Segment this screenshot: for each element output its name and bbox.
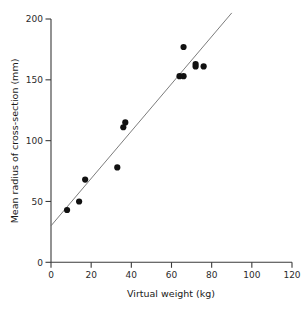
data-point bbox=[193, 61, 199, 67]
y-tick-label: 100 bbox=[26, 136, 43, 146]
x-tick-label: 120 bbox=[283, 270, 300, 280]
x-axis-ticks: 020406080100120 bbox=[48, 262, 301, 280]
y-tick-label: 0 bbox=[37, 258, 43, 268]
x-tick-label: 100 bbox=[243, 270, 260, 280]
y-tick-label: 200 bbox=[26, 14, 43, 24]
data-point bbox=[180, 73, 186, 79]
y-axis-ticks: 050100150200 bbox=[26, 14, 51, 267]
data-point bbox=[201, 63, 207, 69]
data-point bbox=[114, 164, 120, 170]
scatter-chart: 050100150200 020406080100120 Virtual wei… bbox=[0, 0, 308, 312]
axes-group bbox=[51, 19, 292, 262]
x-tick-label: 80 bbox=[206, 270, 218, 280]
x-axis-title: Virtual weight (kg) bbox=[127, 288, 215, 299]
x-tick-label: 0 bbox=[48, 270, 54, 280]
data-point bbox=[64, 207, 70, 213]
data-point bbox=[82, 176, 88, 182]
x-tick-label: 20 bbox=[85, 270, 97, 280]
regression-line bbox=[51, 13, 232, 226]
x-tick-label: 60 bbox=[166, 270, 178, 280]
chart-canvas: 050100150200 020406080100120 Virtual wei… bbox=[0, 0, 308, 312]
data-point bbox=[76, 198, 82, 204]
y-axis-title: Mean radius of cross-section (mm) bbox=[9, 59, 20, 224]
data-point bbox=[122, 119, 128, 125]
data-point bbox=[180, 44, 186, 50]
y-tick-label: 50 bbox=[32, 197, 44, 207]
x-tick-label: 40 bbox=[126, 270, 138, 280]
data-points-group bbox=[64, 44, 207, 213]
y-tick-label: 150 bbox=[26, 75, 43, 85]
